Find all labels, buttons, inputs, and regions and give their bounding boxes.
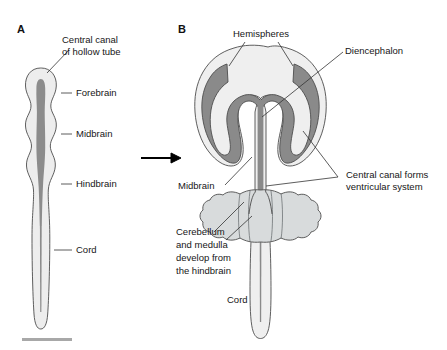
neural-tube-development-diagram: A Central canal of hollow tube Forebrain… (0, 0, 447, 350)
leader-central-canal-midline-b (266, 177, 338, 186)
label-cerebellum-line4: the hindbrain (176, 265, 231, 276)
panel-b-letter: B (178, 23, 186, 35)
panel-b: B (176, 23, 429, 339)
label-central-canal-b-line2: ventricular system (346, 181, 423, 192)
label-cerebellum-line1: Cerebellum (176, 226, 225, 237)
panel-a-letter: A (17, 23, 25, 35)
label-cerebellum-line2: and medulla (176, 239, 228, 250)
neural-tube-cord-canal (40, 226, 42, 312)
transition-arrow-icon (141, 153, 181, 163)
label-midbrain-b: Midbrain (178, 180, 214, 191)
label-cord-a: Cord (76, 244, 97, 255)
label-midbrain-a: Midbrain (76, 128, 112, 139)
label-cord-b: Cord (227, 294, 248, 305)
panel-a: A Central canal of hollow tube Forebrain… (17, 23, 121, 341)
label-diencephalon: Diencephalon (345, 45, 403, 56)
label-hindbrain: Hindbrain (76, 178, 117, 189)
label-cerebellum-line3: develop from (176, 252, 231, 263)
label-hemispheres: Hemispheres (233, 28, 289, 39)
label-central-canal-line1: Central canal (62, 34, 118, 45)
label-central-canal-line2: of hollow tube (62, 46, 121, 57)
label-forebrain: Forebrain (76, 87, 117, 98)
scale-bar (22, 338, 72, 341)
figure-root: A Central canal of hollow tube Forebrain… (0, 0, 447, 350)
label-central-canal-b-line1: Central canal forms (346, 169, 429, 180)
